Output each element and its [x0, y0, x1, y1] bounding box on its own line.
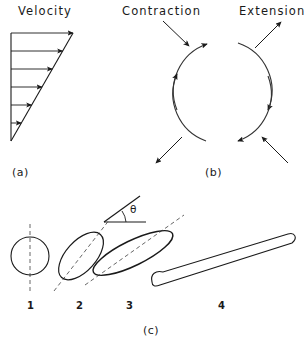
panel-c-tag: (c) [143, 324, 159, 337]
shape-2-axis [54, 219, 110, 291]
shape-label-1: 1 [27, 300, 35, 311]
shape-label-4: 4 [218, 300, 226, 311]
shape-4-sliver [152, 234, 296, 286]
theta-label: θ [130, 203, 137, 215]
theta-angle-symbol [104, 196, 146, 222]
shape-label-3: 3 [126, 300, 134, 311]
shape-2-ellipse [50, 219, 111, 291]
figure-root: Velocity (a) Contraction Extension [0, 0, 305, 343]
shape-1-circle [11, 224, 49, 291]
panel-c-graphic [0, 0, 305, 343]
shape-label-2: 2 [76, 300, 84, 311]
shape-3-ellipse [85, 215, 184, 285]
shape-3-axis [85, 215, 184, 285]
